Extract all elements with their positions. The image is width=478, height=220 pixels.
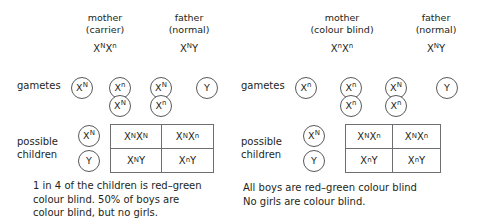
mother-genotype: XnXn bbox=[287, 43, 397, 54]
mother-heading: mother (colour blind) bbox=[287, 12, 397, 35]
father-genotype: XNY bbox=[397, 43, 475, 54]
child-gamete-circle-2: Y bbox=[78, 150, 100, 172]
mother-subtitle: (colour blind) bbox=[287, 24, 397, 36]
gamete-circle-mother-1: XN bbox=[71, 77, 93, 99]
mother-subtitle: (carrier) bbox=[62, 24, 148, 36]
mother-heading: mother (carrier) bbox=[62, 12, 148, 35]
children-label-line-2: children bbox=[17, 149, 58, 162]
punnett-cell-r1c2: XNXn bbox=[162, 125, 213, 149]
children-label-line-1: possible bbox=[241, 136, 282, 149]
possible-children-row-label: possible children bbox=[17, 136, 58, 161]
father-heading: father (normal) bbox=[397, 12, 475, 35]
punnett-square: XNXN XNXn XNY XnY bbox=[110, 124, 214, 173]
gametes-row-label: gametes bbox=[241, 80, 285, 93]
gamete-circle-father-3: Xn bbox=[150, 95, 172, 117]
mother-title: mother bbox=[62, 12, 148, 24]
diagram-caption: 1 in 4 of the children is red–green colo… bbox=[33, 179, 202, 220]
father-genotype: XNY bbox=[148, 43, 230, 54]
punnett-cell-r2c1: XNY bbox=[111, 149, 162, 173]
punnett-cell-r1c1: XNXn bbox=[346, 125, 393, 149]
caption-line-3: colour blind, but no girls. bbox=[33, 206, 202, 220]
father-subtitle: (normal) bbox=[148, 24, 230, 36]
punnett-cell-r2c1: XnY bbox=[346, 149, 393, 173]
father-subtitle: (normal) bbox=[397, 24, 475, 36]
punnett-diagram-carrier-mother: mother (carrier) father (normal) XNXn XN… bbox=[0, 0, 239, 220]
diagram-caption: All boys are red–green colour blind No g… bbox=[243, 181, 417, 208]
punnett-diagram-colour-blind-mother: mother (colour blind) father (normal) Xn… bbox=[239, 0, 478, 220]
gamete-circle-father-2: Y bbox=[196, 77, 218, 99]
caption-line-2: colour blind. 50% of boys are bbox=[33, 193, 202, 207]
gamete-circle-father-3: Xn bbox=[385, 95, 407, 117]
child-gamete-circle-1: XN bbox=[303, 125, 325, 147]
punnett-square: XNXn XNXn XnY XnY bbox=[345, 124, 441, 173]
mother-title: mother bbox=[287, 12, 397, 24]
caption-line-1: 1 in 4 of the children is red–green bbox=[33, 179, 202, 193]
gamete-circle-mother-3: Xn bbox=[340, 95, 362, 117]
punnett-cell-r2c2: XnY bbox=[162, 149, 213, 173]
children-label-line-1: possible bbox=[17, 136, 58, 149]
possible-children-row-label: possible children bbox=[241, 136, 282, 161]
child-gamete-circle-2: Y bbox=[303, 150, 325, 172]
gamete-circle-mother-1: Xn bbox=[295, 77, 317, 99]
father-title: father bbox=[397, 12, 475, 24]
punnett-cell-r2c2: XnY bbox=[393, 149, 440, 173]
punnett-cell-r1c2: XNXn bbox=[393, 125, 440, 149]
gamete-circle-father-2: Y bbox=[436, 77, 458, 99]
children-label-line-2: children bbox=[241, 149, 282, 162]
caption-line-2: No girls are colour blind. bbox=[243, 195, 417, 209]
caption-line-1: All boys are red–green colour blind bbox=[243, 181, 417, 195]
father-heading: father (normal) bbox=[148, 12, 230, 35]
punnett-cell-r1c1: XNXN bbox=[111, 125, 162, 149]
mother-genotype: XNXn bbox=[62, 43, 148, 54]
father-title: father bbox=[148, 12, 230, 24]
child-gamete-circle-1: XN bbox=[78, 125, 100, 147]
gamete-circle-mother-3: XN bbox=[109, 95, 131, 117]
gametes-row-label: gametes bbox=[17, 80, 61, 93]
